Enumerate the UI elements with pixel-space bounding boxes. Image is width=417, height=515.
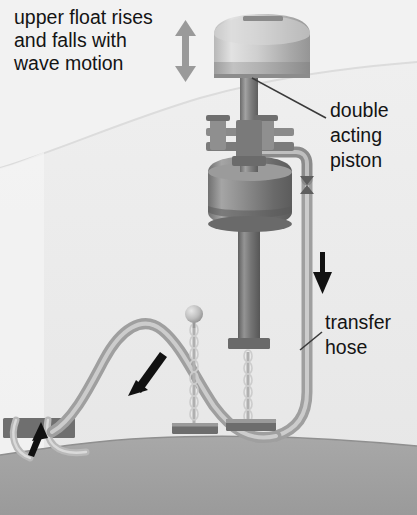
- wave-pump-diagram: upper float rises and falls with wave mo…: [0, 0, 417, 515]
- left-anchor-top: [172, 423, 218, 427]
- left-mooring-chain: [190, 322, 198, 424]
- valve-center-hub: [236, 120, 262, 160]
- piston-line-2: acting: [330, 124, 382, 146]
- right-anchor-top: [226, 419, 276, 423]
- left-valve-cap: [206, 115, 230, 121]
- hose-line-1: transfer: [325, 311, 392, 333]
- piston-line-1: double: [330, 99, 389, 121]
- float-bottom-edge: [214, 74, 310, 78]
- upper-float-line-3: wave motion: [13, 52, 123, 74]
- valve-neck: [232, 156, 266, 166]
- lower-shaft-body: [238, 222, 260, 342]
- upper-float-cylinder: [214, 14, 310, 78]
- right-mooring-chain: [244, 350, 252, 424]
- hose-line-2: hose: [325, 336, 367, 358]
- upper-float-line-1: upper float rises: [14, 6, 153, 28]
- chain-float-ball: [185, 305, 203, 323]
- wave-arrow-shaft: [182, 30, 189, 72]
- piston-line-3: piston: [330, 149, 382, 171]
- upper-float-line-2: and falls with: [14, 29, 127, 51]
- left-valve-body: [210, 118, 226, 150]
- diagram-canvas: upper float rises and falls with wave mo…: [0, 0, 417, 515]
- lower-shaft-flange: [228, 338, 270, 349]
- float-top-hatch: [243, 16, 283, 21]
- piston-bottom-cap: [208, 216, 292, 232]
